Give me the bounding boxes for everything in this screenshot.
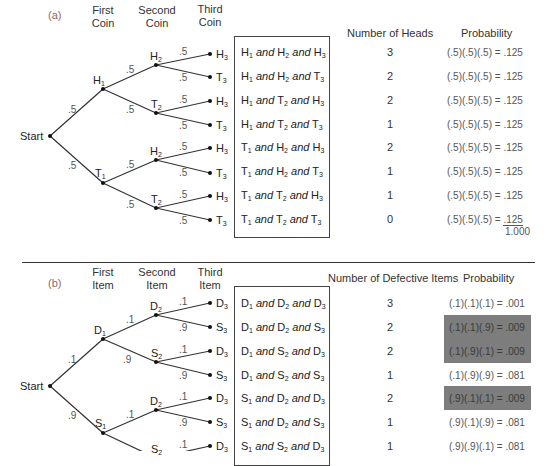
node-t1: T1 xyxy=(95,167,106,180)
heads-count: 1 xyxy=(370,118,410,130)
branch-prob: .5 xyxy=(126,159,134,170)
probability-total: 1.000 xyxy=(505,226,530,237)
branch-prob: .5 xyxy=(126,64,134,75)
leaf-node: D3 xyxy=(216,392,228,405)
branch-prob: .5 xyxy=(179,46,187,57)
defective-count: 2 xyxy=(370,321,410,333)
branch-prob: .5 xyxy=(179,215,187,226)
node-d1: D1 xyxy=(94,324,106,337)
node-h2: H2 xyxy=(150,50,162,63)
probability-calc: (.5)(.5)(.5) = .125 xyxy=(447,71,523,82)
section-divider xyxy=(22,262,535,263)
node-s2: S2 xyxy=(151,347,162,360)
header-first-item: FirstItem xyxy=(82,266,124,292)
outcome-row: D1 and D2 and S3 xyxy=(241,321,325,334)
defective-count: 1 xyxy=(370,416,410,428)
branch-prob: .1 xyxy=(179,439,187,450)
branch-prob: .5 xyxy=(68,104,76,115)
leaf-node: D3 xyxy=(216,440,228,453)
heads-count: 1 xyxy=(370,165,410,177)
part-a-label: (a) xyxy=(48,9,61,21)
header-first-coin: FirstCoin xyxy=(82,4,124,30)
probability-calc: (.5)(.5)(.5) = .125 xyxy=(447,166,523,177)
outcome-row: S1 and D2 and D3 xyxy=(241,392,325,405)
header-number-of-heads: Number of Heads xyxy=(347,27,433,40)
heads-count: 2 xyxy=(370,141,410,153)
branch-prob: .5 xyxy=(179,120,187,131)
branch-prob: .5 xyxy=(179,72,187,83)
node-h2: H2 xyxy=(150,145,162,158)
branch-prob: .5 xyxy=(179,94,187,105)
leaf-node: H3 xyxy=(216,95,228,108)
outcomes-box xyxy=(234,36,330,238)
header-probability: Probability xyxy=(463,272,514,285)
outcome-row: T1 and H2 and T3 xyxy=(241,165,323,178)
probability-calc-highlighted: (.9)(.1)(.1) = .009 xyxy=(449,393,525,404)
leaf-node: H3 xyxy=(216,190,228,203)
header-number-of-defective-items: Number of Defective Items xyxy=(328,272,458,285)
node-h1: H1 xyxy=(93,74,105,87)
probability-calc: (.5)(.5)(.5) = .125 xyxy=(447,190,523,201)
branch-prob: .9 xyxy=(179,370,187,381)
outcome-row: H1 and T2 and H3 xyxy=(241,94,324,107)
probability-calc: (.5)(.5)(.5) = .125 xyxy=(447,142,523,153)
branch-prob: .5 xyxy=(126,104,134,115)
leaf-node: H3 xyxy=(216,48,228,61)
node-d2: D2 xyxy=(150,395,162,408)
header-third-coin: ThirdCoin xyxy=(190,3,230,29)
leaf-node: H3 xyxy=(216,142,228,155)
defective-count: 1 xyxy=(370,369,410,381)
branch-prob: .1 xyxy=(179,344,187,355)
leaf-node: S3 xyxy=(216,416,227,429)
outcome-row: T1 and H2 and H3 xyxy=(241,141,324,154)
branch-prob: .1 xyxy=(126,409,134,420)
heads-count: 1 xyxy=(370,189,410,201)
outcome-row: S1 and D2 and S3 xyxy=(241,416,324,429)
branch-prob: .5 xyxy=(179,141,187,152)
branch-prob: .1 xyxy=(179,391,187,402)
branch-prob: .1 xyxy=(126,314,134,325)
node-s1: S1 xyxy=(95,417,106,430)
outcome-row: D1 and D2 and D3 xyxy=(241,297,326,310)
leaf-node: D3 xyxy=(216,345,228,358)
defective-count: 2 xyxy=(370,345,410,357)
heads-count: 3 xyxy=(370,46,410,58)
branch-prob: .9 xyxy=(68,410,76,421)
start-node-label: Start xyxy=(20,380,43,392)
leaf-node: T3 xyxy=(216,119,227,132)
part-b-label: (b) xyxy=(48,277,61,289)
probability-calc-highlighted: (.1)(.1)(.9) = .009 xyxy=(449,322,525,333)
probability-calc: (.5)(.5)(.5) = .125 xyxy=(447,95,523,106)
branch-prob: .9 xyxy=(123,354,131,365)
heads-count: 0 xyxy=(370,213,410,225)
branch-prob: .9 xyxy=(179,322,187,333)
probability-calc: (.5)(.5)(.5) = .125 xyxy=(447,47,523,58)
probability-calc: (.5)(.5)(.5) = .125 xyxy=(447,119,523,130)
defective-count: 3 xyxy=(370,297,410,309)
outcome-row: D1 and S2 and S3 xyxy=(241,369,324,382)
branch-prob: .5 xyxy=(126,199,134,210)
leaf-node: T3 xyxy=(216,71,227,84)
outcome-row: D1 and S2 and D3 xyxy=(241,345,325,358)
probability-calc: (.1)(.1)(.1) = .001 xyxy=(449,298,525,309)
node-s2: S2 xyxy=(151,443,162,456)
outcome-row: H1 and H2 and H3 xyxy=(241,46,326,59)
leaf-node: S3 xyxy=(216,369,227,382)
header-second-coin: SecondCoin xyxy=(134,4,180,30)
node-d2: D2 xyxy=(150,300,162,313)
branch-prob: .1 xyxy=(179,296,187,307)
node-t2: T2 xyxy=(151,193,162,206)
header-probability: Probability xyxy=(461,27,512,40)
header-second-item: SecondItem xyxy=(134,266,180,292)
outcome-row: T1 and T2 and H3 xyxy=(241,189,323,202)
branch-prob: .5 xyxy=(179,189,187,200)
branch-prob: .1 xyxy=(68,354,76,365)
node-t2: T2 xyxy=(151,98,162,111)
probability-calc-highlighted: (.1)(.9)(.1) = .009 xyxy=(449,346,525,357)
heads-count: 2 xyxy=(370,70,410,82)
outcome-row: H1 and T2 and T3 xyxy=(241,118,323,131)
defective-count: 1 xyxy=(370,440,410,452)
probability-calc: (.1)(.9)(.9) = .081 xyxy=(449,370,525,381)
header-third-item: ThirdItem xyxy=(190,266,230,292)
outcome-row: S1 and S2 and D3 xyxy=(241,440,324,453)
